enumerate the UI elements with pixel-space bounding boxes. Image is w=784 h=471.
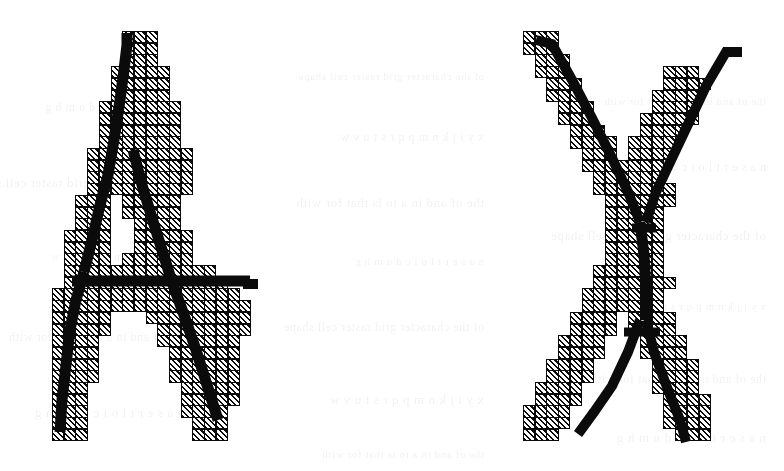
raster-cell: [87, 242, 99, 254]
raster-cell: [675, 90, 687, 102]
raster-cell: [122, 101, 134, 113]
raster-cell: [64, 382, 76, 394]
raster-cell: [699, 394, 711, 406]
raster-cell: [146, 230, 158, 242]
raster-cell: [228, 312, 240, 324]
raster-cell: [146, 171, 158, 183]
raster-cell: [146, 160, 158, 172]
raster-cell: [157, 230, 169, 242]
raster-cell: [204, 359, 216, 371]
raster-cell: [582, 160, 594, 172]
raster-cell: [582, 347, 594, 359]
raster-cell: [640, 242, 652, 254]
raster-cell: [663, 394, 675, 406]
raster-cell: [582, 101, 594, 113]
raster-cell: [593, 288, 605, 300]
raster-cell: [535, 54, 547, 66]
raster-cell: [558, 66, 570, 78]
raster-cell: [169, 370, 181, 382]
raster-cell: [628, 171, 640, 183]
raster-cell: [228, 394, 240, 406]
raster-cell: [169, 183, 181, 195]
raster-cell: [605, 288, 617, 300]
raster-cell: [640, 125, 652, 137]
raster-cell: [652, 113, 664, 125]
raster-cell: [605, 183, 617, 195]
raster-cell: [192, 370, 204, 382]
raster-cell: [75, 265, 87, 277]
raster-cell: [628, 300, 640, 312]
raster-cell: [628, 288, 640, 300]
raster-cell: [605, 148, 617, 160]
raster-cell: [593, 324, 605, 336]
raster-cell: [181, 335, 193, 347]
raster-cell: [64, 429, 76, 441]
raster-cell: [535, 382, 547, 394]
raster-cell: [535, 429, 547, 441]
raster-cell: [640, 312, 652, 324]
raster-cell: [169, 160, 181, 172]
raster-cell: [204, 277, 216, 289]
raster-cell: [663, 136, 675, 148]
raster-cell: [99, 148, 111, 160]
raster-cell: [134, 90, 146, 102]
raster-cell: [239, 300, 251, 312]
raster-cell: [111, 148, 123, 160]
raster-cell: [546, 66, 558, 78]
raster-cell: [122, 43, 134, 55]
raster-cell: [99, 218, 111, 230]
raster-cell: [192, 347, 204, 359]
raster-cell: [546, 405, 558, 417]
raster-cell: [558, 78, 570, 90]
raster-cell: [146, 113, 158, 125]
raster-cell: [169, 148, 181, 160]
raster-cell: [535, 394, 547, 406]
raster-cell: [570, 370, 582, 382]
raster-cell: [535, 43, 547, 55]
raster-cell: [157, 207, 169, 219]
raster-cell: [628, 324, 640, 336]
raster-cell: [204, 347, 216, 359]
raster-cell: [134, 43, 146, 55]
raster-cell: [169, 300, 181, 312]
raster-cell: [64, 242, 76, 254]
raster-cell: [640, 207, 652, 219]
raster-cell: [216, 312, 228, 324]
raster-cell: [582, 359, 594, 371]
raster-cell: [64, 417, 76, 429]
raster-cell: [675, 405, 687, 417]
raster-cell: [204, 300, 216, 312]
raster-cell: [605, 160, 617, 172]
raster-cell: [192, 277, 204, 289]
raster-cell: [122, 31, 134, 43]
raster-cell: [64, 405, 76, 417]
raster-cell: [593, 136, 605, 148]
raster-cell: [64, 230, 76, 242]
raster-cell: [216, 277, 228, 289]
raster-cell: [675, 394, 687, 406]
raster-cell: [228, 359, 240, 371]
raster-cell: [675, 347, 687, 359]
raster-cell: [605, 242, 617, 254]
raster-cell: [75, 242, 87, 254]
raster-cell: [593, 160, 605, 172]
raster-cell: [605, 218, 617, 230]
raster-cell: [157, 288, 169, 300]
raster-cell: [617, 265, 629, 277]
raster-cell: [605, 300, 617, 312]
raster-cell: [617, 160, 629, 172]
raster-cell: [605, 277, 617, 289]
raster-cell: [663, 347, 675, 359]
raster-cell: [87, 171, 99, 183]
raster-cell: [52, 312, 64, 324]
raster-cell: [134, 242, 146, 254]
raster-cell: [570, 335, 582, 347]
raster-cell: [228, 370, 240, 382]
raster-cell: [52, 429, 64, 441]
raster-cell: [628, 277, 640, 289]
raster-cell: [546, 359, 558, 371]
raster-cell: [628, 242, 640, 254]
raster-cell: [146, 54, 158, 66]
raster-cell: [617, 171, 629, 183]
raster-cell: [192, 382, 204, 394]
